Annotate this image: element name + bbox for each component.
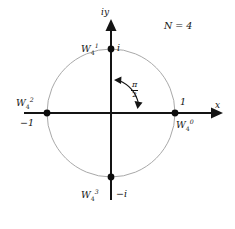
root-label-w40-sub: 4	[186, 125, 190, 132]
root-label-w42: W42	[16, 97, 34, 110]
root-label-w43-sup: 3	[95, 188, 99, 195]
root-label-w41-base: W	[81, 43, 91, 54]
angle-label-numerator: π	[131, 81, 138, 89]
y-axis-arrowhead	[106, 19, 117, 31]
root-value-w40: 1	[180, 97, 186, 107]
root-value-w41: i	[117, 43, 120, 53]
root-label-w40-base: W	[176, 119, 186, 130]
root-label-w40-sup: 0	[190, 118, 194, 125]
root-value-w43: −i	[116, 189, 127, 199]
angle-label-denominator: 2	[131, 91, 138, 99]
y-axis-label: iy	[101, 8, 109, 17]
n-annotation: N = 4	[164, 21, 192, 31]
root-label-w42-sup: 2	[30, 96, 34, 103]
angle-label: π 2	[131, 81, 138, 99]
root-label-w43-sub: 4	[91, 195, 95, 202]
root-label-w42-base: W	[16, 97, 26, 108]
complex-plane-roots-of-unity-figure: x iy N = 4 W41 i W42 −1 1 W40 W43 −i π 2	[0, 0, 235, 229]
x-axis-label: x	[215, 101, 220, 110]
root-label-w43-base: W	[81, 189, 91, 200]
root-label-w41-sub: 4	[91, 49, 95, 56]
angle-arc-arrowhead-end	[135, 101, 143, 109]
root-point-w43	[108, 174, 115, 181]
root-label-w41-sup: 1	[95, 42, 99, 49]
root-label-w43: W43	[81, 189, 99, 202]
root-label-w40: W40	[176, 119, 194, 132]
angle-arc-arrowhead-start	[114, 77, 122, 85]
root-point-w42	[44, 110, 51, 117]
root-point-w40	[172, 110, 179, 117]
root-value-w42: −1	[20, 118, 34, 128]
root-label-w42-sub: 4	[26, 103, 30, 110]
root-label-w41: W41	[81, 43, 99, 56]
root-point-w41	[108, 46, 115, 53]
